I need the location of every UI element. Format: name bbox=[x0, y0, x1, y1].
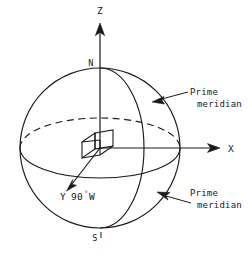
south-pole-label: S bbox=[92, 233, 97, 243]
callout-top-arrowhead bbox=[152, 97, 165, 105]
origin-cube bbox=[82, 130, 113, 158]
y-axis-arrowhead bbox=[67, 180, 77, 191]
callout-top-line2: meridian bbox=[197, 99, 242, 109]
y-axis-line bbox=[72, 148, 100, 184]
y-axis-hemisphere-label: W bbox=[89, 191, 95, 202]
cube-left-face bbox=[82, 133, 95, 158]
callout-bottom-arrowhead bbox=[157, 192, 170, 200]
sphere-coordinate-diagram: Z X Y 90 ° W N S bbox=[0, 0, 252, 254]
diagram-canvas: Z X Y 90 ° W N S bbox=[0, 0, 252, 254]
x-axis-label: X bbox=[228, 143, 234, 154]
callout-prime-meridian-bottom: Prime meridian bbox=[157, 188, 242, 210]
callout-bottom-leader-line bbox=[166, 196, 191, 203]
degree-symbol: ° bbox=[85, 189, 89, 196]
callout-prime-meridian-top: Prime meridian bbox=[152, 87, 242, 109]
y-axis-longitude-value: 90 bbox=[71, 191, 83, 202]
cube-back-face bbox=[95, 130, 113, 149]
callout-bottom-line2: meridian bbox=[197, 200, 242, 210]
callout-top-line1: Prime bbox=[190, 87, 218, 97]
z-axis-label: Z bbox=[97, 5, 103, 16]
y-axis-label: Y bbox=[60, 191, 66, 202]
north-pole-label: N bbox=[88, 58, 93, 68]
callout-bottom-line1: Prime bbox=[190, 188, 218, 198]
